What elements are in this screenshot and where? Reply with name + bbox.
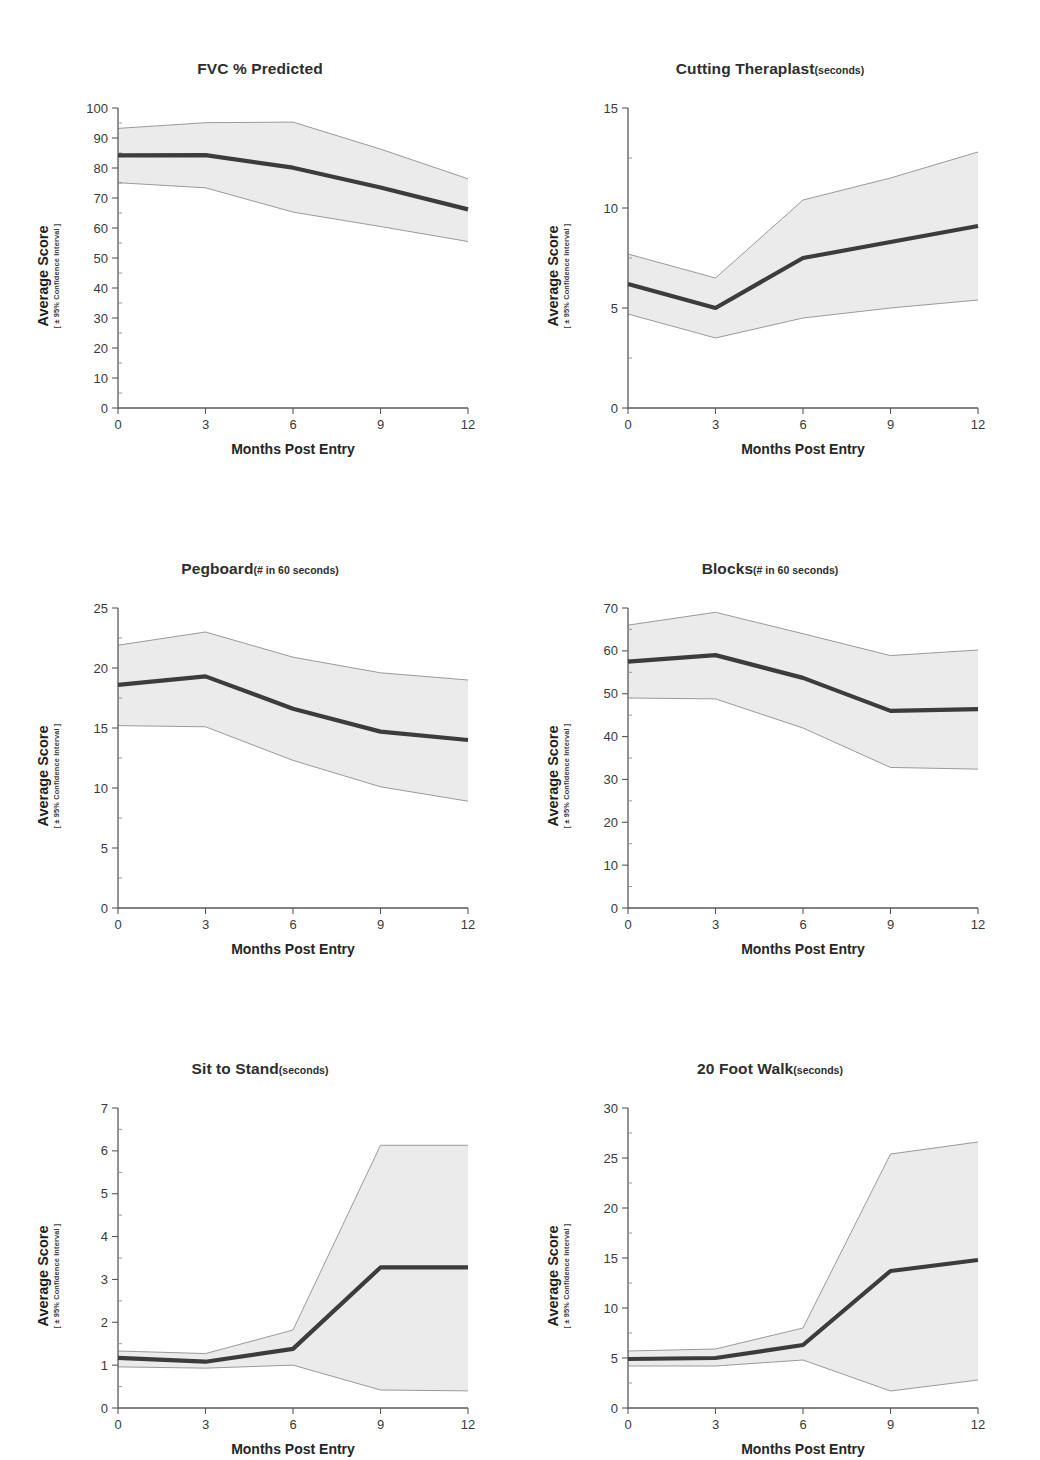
y-tick-label: 3 bbox=[101, 1272, 108, 1287]
x-tick-label: 3 bbox=[712, 417, 719, 432]
x-tick-label: 3 bbox=[202, 1417, 209, 1432]
x-tick-label: 6 bbox=[799, 1417, 806, 1432]
y-tick-label: 60 bbox=[94, 221, 108, 236]
x-tick-label: 12 bbox=[971, 917, 985, 932]
panel-title-text: FVC % Predicted bbox=[197, 60, 323, 77]
panel-title-text: Blocks bbox=[702, 560, 753, 577]
y-tick-label: 5 bbox=[101, 1186, 108, 1201]
x-axis-title: Months Post Entry bbox=[741, 941, 865, 957]
x-tick-label: 3 bbox=[202, 417, 209, 432]
plot-area: 010203040506070036912Months Post EntryAv… bbox=[520, 586, 1020, 976]
panel-title-unit: (seconds) bbox=[815, 64, 865, 76]
panel-title-unit: (# in 60 seconds) bbox=[254, 564, 339, 576]
y-tick-label: 40 bbox=[94, 281, 108, 296]
x-tick-label: 12 bbox=[461, 417, 475, 432]
y-tick-label: 0 bbox=[611, 1401, 618, 1416]
panel-title-text: Cutting Theraplast bbox=[676, 60, 815, 77]
y-tick-label: 20 bbox=[94, 661, 108, 676]
y-tick-label: 6 bbox=[101, 1143, 108, 1158]
panel-title: Pegboard(# in 60 seconds) bbox=[10, 560, 510, 578]
y-tick-label: 0 bbox=[101, 1401, 108, 1416]
x-tick-label: 0 bbox=[624, 917, 631, 932]
x-axis-title: Months Post Entry bbox=[231, 441, 355, 457]
x-tick-label: 12 bbox=[461, 1417, 475, 1432]
y-tick-label: 2 bbox=[101, 1315, 108, 1330]
x-tick-label: 3 bbox=[202, 917, 209, 932]
x-tick-label: 9 bbox=[377, 917, 384, 932]
x-tick-label: 9 bbox=[887, 417, 894, 432]
y-tick-label: 15 bbox=[604, 1251, 618, 1266]
panel-title-unit: (seconds) bbox=[793, 1064, 843, 1076]
x-tick-label: 12 bbox=[971, 1417, 985, 1432]
panel-title-text: Pegboard bbox=[181, 560, 253, 577]
y-axis-title: Average Score bbox=[35, 225, 51, 326]
y-tick-label: 20 bbox=[604, 815, 618, 830]
y-axis-title: Average Score bbox=[35, 725, 51, 826]
chart-panel-pegboard: Pegboard(# in 60 seconds) 05101520250369… bbox=[10, 556, 510, 976]
panel-title-unit: (# in 60 seconds) bbox=[753, 564, 838, 576]
confidence-band bbox=[118, 122, 468, 241]
y-axis-title: Average Score bbox=[545, 1225, 561, 1326]
panel-title: 20 Foot Walk(seconds) bbox=[520, 1060, 1020, 1078]
y-tick-label: 10 bbox=[94, 371, 108, 386]
x-axis-title: Months Post Entry bbox=[231, 1441, 355, 1457]
chart-panel-cutting-theraplast: Cutting Theraplast(seconds) 051015036912… bbox=[520, 56, 1020, 476]
y-tick-label: 0 bbox=[611, 901, 618, 916]
y-tick-label: 20 bbox=[94, 341, 108, 356]
x-axis-title: Months Post Entry bbox=[231, 941, 355, 957]
panel-title: FVC % Predicted bbox=[10, 60, 510, 78]
y-tick-label: 30 bbox=[604, 772, 618, 787]
y-tick-label: 7 bbox=[101, 1101, 108, 1116]
chart-panel-fvc-percent-predicted: FVC % Predicted 010203040506070809010003… bbox=[10, 56, 510, 476]
plot-area: 0510152025036912Months Post EntryAverage… bbox=[10, 586, 510, 976]
y-tick-label: 4 bbox=[101, 1229, 108, 1244]
y-tick-label: 25 bbox=[604, 1151, 618, 1166]
y-tick-label: 10 bbox=[604, 858, 618, 873]
plot-area: 0102030405060708090100036912Months Post … bbox=[10, 86, 510, 476]
y-axis-title-group: Average Score[ ± 95% Confidence Interval… bbox=[35, 1223, 61, 1328]
y-axis-title: Average Score bbox=[545, 725, 561, 826]
confidence-band bbox=[628, 612, 978, 769]
panel-title-text: Sit to Stand bbox=[192, 1060, 279, 1077]
y-axis-title-group: Average Score[ ± 95% Confidence Interval… bbox=[545, 1223, 571, 1328]
y-axis-title-group: Average Score[ ± 95% Confidence Interval… bbox=[545, 223, 571, 328]
y-tick-label: 90 bbox=[94, 131, 108, 146]
x-tick-label: 0 bbox=[114, 417, 121, 432]
y-tick-label: 30 bbox=[94, 311, 108, 326]
plot-area: 01234567036912Months Post EntryAverage S… bbox=[10, 1086, 510, 1460]
y-tick-label: 10 bbox=[604, 1301, 618, 1316]
y-tick-label: 50 bbox=[94, 251, 108, 266]
y-axis-subtitle: [ ± 95% Confidence Interval ] bbox=[562, 223, 571, 328]
x-tick-label: 9 bbox=[377, 417, 384, 432]
x-tick-label: 6 bbox=[289, 917, 296, 932]
y-axis-subtitle: [ ± 95% Confidence Interval ] bbox=[52, 723, 61, 828]
panel-title-unit: (seconds) bbox=[279, 1064, 329, 1076]
x-tick-label: 0 bbox=[114, 917, 121, 932]
y-tick-label: 25 bbox=[94, 601, 108, 616]
x-tick-label: 6 bbox=[289, 417, 296, 432]
y-axis-subtitle: [ ± 95% Confidence Interval ] bbox=[52, 1223, 61, 1328]
y-tick-label: 15 bbox=[604, 101, 618, 116]
plot-area: 051015202530036912Months Post EntryAvera… bbox=[520, 1086, 1020, 1460]
figure-grid: FVC % Predicted 010203040506070809010003… bbox=[0, 0, 1040, 1460]
chart-panel-blocks: Blocks(# in 60 seconds) 0102030405060700… bbox=[520, 556, 1020, 976]
y-axis-subtitle: [ ± 95% Confidence Interval ] bbox=[562, 723, 571, 828]
confidence-band bbox=[628, 152, 978, 338]
x-axis-title: Months Post Entry bbox=[741, 441, 865, 457]
panel-title-text: 20 Foot Walk bbox=[697, 1060, 793, 1077]
x-axis-title: Months Post Entry bbox=[741, 1441, 865, 1457]
x-tick-label: 9 bbox=[377, 1417, 384, 1432]
y-axis-title: Average Score bbox=[545, 225, 561, 326]
y-tick-label: 5 bbox=[101, 841, 108, 856]
y-axis-title-group: Average Score[ ± 95% Confidence Interval… bbox=[35, 223, 61, 328]
x-tick-label: 0 bbox=[624, 417, 631, 432]
y-tick-label: 70 bbox=[94, 191, 108, 206]
y-tick-label: 40 bbox=[604, 729, 618, 744]
y-axis-title-group: Average Score[ ± 95% Confidence Interval… bbox=[545, 723, 571, 828]
y-tick-label: 60 bbox=[604, 643, 618, 658]
x-tick-label: 6 bbox=[289, 1417, 296, 1432]
panel-title: Blocks(# in 60 seconds) bbox=[520, 560, 1020, 578]
chart-panel-sit-to-stand: Sit to Stand(seconds) 01234567036912Mont… bbox=[10, 1056, 510, 1460]
x-tick-label: 3 bbox=[712, 1417, 719, 1432]
plot-area: 051015036912Months Post EntryAverage Sco… bbox=[520, 86, 1020, 476]
